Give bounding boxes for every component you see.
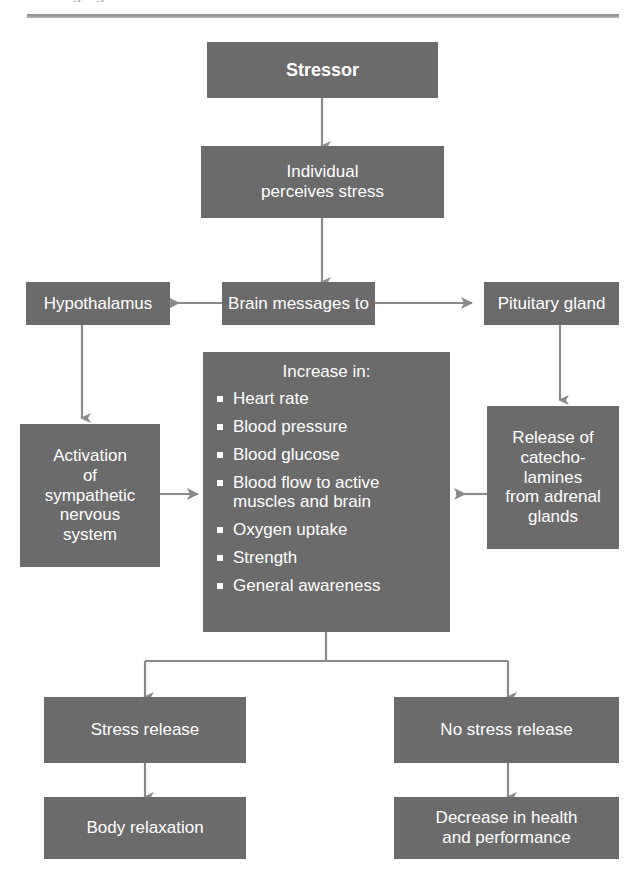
node-release-line4: from adrenal: [505, 487, 600, 507]
node-brain-messages-to[interactable]: Brain messages to: [222, 282, 375, 325]
node-activation-line4: nervous: [60, 505, 120, 525]
node-activation-line5: system: [63, 525, 117, 545]
node-no-stress-release-label: No stress release: [440, 720, 572, 740]
node-body-relaxation[interactable]: Body relaxation: [44, 797, 246, 859]
bullet-square-icon: [217, 424, 223, 430]
node-decrease-line2: and performance: [442, 828, 571, 848]
page-title: Changing the Stressor: [34, 0, 199, 2]
list-item-text: Strength: [233, 548, 297, 567]
list-item-text: Blood glucose: [233, 445, 340, 464]
bullet-square-icon: [217, 396, 223, 402]
list-item: Heart rate: [217, 389, 444, 408]
node-activation-line3: sympathetic: [45, 486, 136, 506]
node-stress-release-label: Stress release: [91, 720, 200, 740]
node-release-line5: glands: [528, 507, 578, 527]
node-activation-line2: of: [83, 466, 97, 486]
node-pituitary-gland[interactable]: Pituitary gland: [484, 282, 619, 325]
node-decrease-line1: Decrease in health: [436, 808, 578, 828]
node-perceives-line2: perceives stress: [261, 182, 384, 202]
node-release-line2: catecho-: [520, 448, 585, 468]
node-hypothalamus[interactable]: Hypothalamus: [26, 282, 170, 325]
node-decrease-in-health-and-performance[interactable]: Decrease in health and performance: [394, 797, 619, 859]
list-item: Blood flow to active muscles and brain: [217, 473, 444, 511]
node-increase-heading: Increase in:: [203, 362, 450, 382]
list-item: General awareness: [217, 576, 444, 595]
list-item-text-cont: muscles and brain: [233, 492, 371, 511]
list-item-text: Blood flow to active: [233, 473, 379, 492]
bullet-square-icon: [217, 480, 223, 486]
node-release-line1: Release of: [512, 428, 593, 448]
list-item-text: Oxygen uptake: [233, 520, 347, 539]
list-item: Blood glucose: [217, 445, 444, 464]
node-body-relaxation-label: Body relaxation: [86, 818, 203, 838]
bullet-square-icon: [217, 583, 223, 589]
node-release-of-catecholamines[interactable]: Release of catecho- lamines from adrenal…: [487, 406, 619, 549]
bullet-square-icon: [217, 527, 223, 533]
node-stressor-label: Stressor: [286, 60, 359, 81]
node-stress-release[interactable]: Stress release: [44, 697, 246, 763]
list-item: Blood pressure: [217, 417, 444, 436]
node-pituitary-label: Pituitary gland: [498, 294, 606, 314]
list-item-text: Heart rate: [233, 389, 309, 408]
node-brain-messages-label: Brain messages to: [228, 294, 369, 314]
list-item-text: Blood pressure: [233, 417, 347, 436]
node-perceives-line1: Individual: [287, 162, 359, 182]
list-item: Oxygen uptake: [217, 520, 444, 539]
bullet-square-icon: [217, 555, 223, 561]
node-increase-in[interactable]: Increase in: Heart rate Blood pressure B…: [203, 352, 450, 632]
increase-list: Heart rate Blood pressure Blood glucose …: [203, 389, 450, 595]
bullet-square-icon: [217, 452, 223, 458]
node-stressor[interactable]: Stressor: [207, 42, 438, 98]
node-hypothalamus-label: Hypothalamus: [44, 294, 153, 314]
list-item-text: General awareness: [233, 576, 380, 595]
node-activation-sympathetic-nervous-system[interactable]: Activation of sympathetic nervous system: [20, 424, 160, 567]
node-no-stress-release[interactable]: No stress release: [394, 697, 619, 763]
node-individual-perceives-stress[interactable]: Individual perceives stress: [201, 146, 444, 218]
list-item: Strength: [217, 548, 444, 567]
header-divider: [27, 14, 619, 18]
node-activation-line1: Activation: [53, 446, 127, 466]
node-release-line3: lamines: [524, 468, 583, 488]
